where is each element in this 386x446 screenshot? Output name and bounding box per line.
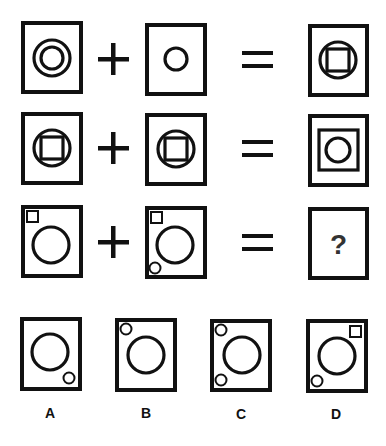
option-a[interactable]: A — [22, 319, 80, 421]
row-2-operand-1-circle-square — [23, 114, 81, 183]
row-1-result-circle-square — [310, 26, 367, 95]
row-3-operand-1 — [23, 207, 81, 276]
row-1: + — [0, 0, 367, 95]
row-2 — [23, 114, 367, 185]
row-3-result-unknown: ? — [310, 209, 367, 278]
row-2-result-square-circle — [310, 116, 367, 185]
equals-icon — [242, 234, 273, 251]
plus-icon — [98, 43, 129, 75]
puzzle-canvas: + — [0, 0, 386, 446]
option-d-label: D — [331, 406, 341, 422]
option-b-label: B — [141, 405, 151, 421]
plus-icon — [98, 132, 129, 164]
equals-icon — [242, 140, 273, 157]
option-b[interactable]: B — [117, 320, 175, 421]
row-3-operand-2 — [147, 208, 205, 277]
option-a-label: A — [45, 405, 55, 421]
row-2-operand-2-circle-square — [147, 115, 205, 184]
option-d[interactable]: D — [308, 321, 366, 422]
option-c-label: C — [236, 406, 246, 422]
answer-options: A B C D — [22, 319, 366, 422]
row-1-operand-1-double-circle — [23, 23, 81, 92]
plus-icon — [98, 226, 129, 258]
row-1-operand-2-small-circle — [147, 25, 205, 94]
option-c[interactable]: C — [212, 321, 270, 422]
equals-icon — [242, 51, 273, 68]
row-3: ? — [23, 207, 367, 278]
question-mark: ? — [330, 229, 347, 260]
